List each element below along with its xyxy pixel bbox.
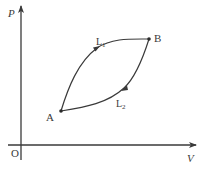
point-a [59,109,63,113]
curve-l2-label: L2 [116,98,126,111]
l2-direction-arrow-icon [121,86,128,92]
origin-label: O [11,147,19,159]
point-a-label: A [46,111,54,123]
curve-l2 [61,39,149,111]
y-axis-label: P [7,7,15,19]
pv-diagram: P V O A B L1 L2 [0,0,209,170]
point-b [147,37,151,41]
x-axis-label: V [187,152,195,164]
point-b-label: B [154,32,161,44]
